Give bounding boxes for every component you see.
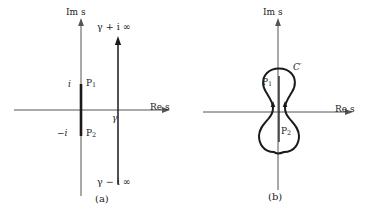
contour-label-c-prime: C′ bbox=[293, 63, 301, 72]
real-axis-label-a: Re s bbox=[150, 103, 170, 112]
real-axis-label-b: Re s bbox=[335, 105, 355, 114]
gamma-label-a: γ bbox=[112, 114, 117, 123]
pole-2-subscript-b: 2 bbox=[287, 129, 291, 137]
imaginary-axis-arrowhead-b bbox=[275, 18, 281, 26]
panel-a-caption: (a) bbox=[95, 194, 109, 204]
pole-1-subscript-b: 1 bbox=[268, 80, 272, 88]
imaginary-axis-label-a: Im s bbox=[66, 8, 86, 17]
bromwich-direction-arrowhead-a bbox=[115, 36, 121, 45]
imaginary-unit-positive-label-a: i bbox=[68, 80, 71, 89]
gamma-plus-i-infinity-label: γ + i ∞ bbox=[97, 22, 131, 32]
panel-b-caption: (b) bbox=[268, 192, 282, 202]
imaginary-unit-negative-label-a: −i bbox=[57, 129, 67, 138]
figure-container: Im s Re s i −i P1 P2 γ γ + i ∞ γ − i ∞ (… bbox=[0, 0, 389, 214]
pole-2-label-a: P2 bbox=[86, 129, 96, 139]
pole-1-label-b: P1 bbox=[262, 78, 272, 88]
imaginary-axis-label-b: Im s bbox=[263, 8, 283, 17]
imaginary-axis-arrowhead-a bbox=[78, 18, 84, 26]
panel-b-graphic bbox=[195, 0, 389, 214]
panel-b: Im s Re s C′ P1 P2 (b) bbox=[195, 0, 389, 214]
gamma-minus-i-infinity-label: γ − i ∞ bbox=[97, 177, 131, 187]
pole-2-subscript-a: 2 bbox=[92, 131, 96, 139]
pole-2-label-b: P2 bbox=[281, 127, 291, 137]
panel-a: Im s Re s i −i P1 P2 γ γ + i ∞ γ − i ∞ (… bbox=[0, 0, 195, 214]
pole-1-subscript-a: 1 bbox=[92, 81, 96, 89]
pole-1-label-a: P1 bbox=[86, 79, 96, 89]
contour-prime-mark: ′ bbox=[300, 62, 302, 70]
